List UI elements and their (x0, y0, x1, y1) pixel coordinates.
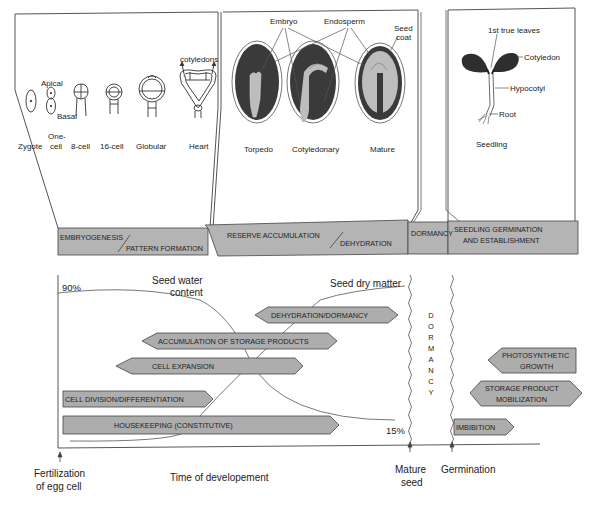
svg-text:IMBIBITION: IMBIBITION (456, 423, 495, 432)
stage-torpedo: Torpedo (244, 145, 273, 154)
fertilization-label-2: of egg cell (36, 481, 82, 492)
stage-one-cell-b: cell (50, 142, 62, 151)
stage-zygote: Zygote (18, 142, 43, 151)
mature-seed-label-1: Mature (395, 464, 427, 475)
phase-pattern-formation: PATTERN FORMATION (126, 244, 203, 253)
seed-development-diagram: cotyledons Apical Basal Zygote One- cell… (0, 0, 596, 506)
svg-text:DEHYDRATION/DORMANCY: DEHYDRATION/DORMANCY (271, 311, 368, 320)
reserve-panel: Embryo Endosperm Seed coat Torpedo Cotyl… (223, 10, 418, 228)
process-storage-mobilization: STORAGE PRODUCT MOBILIZATION (470, 381, 582, 406)
phase-dormancy: DORMANCY (411, 229, 453, 238)
x-axis-label: Time of developement (170, 472, 269, 483)
stage-8-cell: 8-cell (71, 142, 90, 151)
dormancy-vertical-label: D O R M A N C Y (428, 311, 434, 397)
process-accumulation: ACCUMULATION OF STORAGE PRODUCTS (142, 333, 337, 349)
one-cell-icon (47, 87, 56, 114)
svg-text:O: O (428, 322, 434, 331)
hypocotyl-label: Hypocotyl (510, 84, 545, 93)
svg-text:M: M (428, 344, 434, 353)
x-axis (58, 444, 540, 448)
pct-15-label: 15% (386, 425, 406, 436)
svg-text:GROWTH: GROWTH (520, 362, 553, 371)
seed-coat-label-1: Seed (394, 24, 413, 33)
stage-seedling: Seedling (476, 140, 507, 149)
germination-label: Germination (441, 464, 495, 475)
embryo-label: Embryo (270, 17, 298, 26)
svg-text:C: C (428, 377, 434, 386)
seed-coat-label-2: coat (396, 33, 412, 42)
process-imbibition: IMBIBITION (454, 419, 514, 435)
mature-seed-icon (355, 43, 405, 123)
sixteen-cell-icon (106, 84, 122, 114)
svg-text:CELL EXPANSION: CELL EXPANSION (152, 362, 214, 371)
phase-germination-2: AND ESTABLISHMENT (463, 236, 540, 245)
svg-text:HOUSEKEEPING (CONSTITUTIVE): HOUSEKEEPING (CONSTITUTIVE) (114, 421, 233, 430)
svg-text:CELL DIVISION/DIFFERENTIATION: CELL DIVISION/DIFFERENTIATION (65, 395, 184, 404)
cotyledons-label: cotyledons (180, 55, 218, 64)
svg-text:R: R (428, 333, 434, 342)
basal-label: Basal (57, 112, 77, 121)
apical-label: Apical (41, 79, 63, 88)
svg-text:MOBILIZATION: MOBILIZATION (496, 395, 547, 404)
germination-arrow-icon (450, 442, 454, 452)
mature-seed-label-2: seed (401, 477, 423, 488)
torpedo-seed-icon (232, 41, 282, 123)
process-dehydration-dormancy: DEHYDRATION/DORMANCY (255, 307, 398, 323)
stage-mature: Mature (370, 145, 395, 154)
fertilization-label-1: Fertilization (34, 468, 85, 479)
process-cell-expansion: CELL EXPANSION (116, 358, 303, 374)
zygote-icon (26, 90, 36, 112)
fertilization-arrow-icon (58, 452, 62, 462)
endosperm-label: Endosperm (324, 17, 365, 26)
svg-text:A: A (428, 355, 433, 364)
seedling-panel: 1st true leaves Cotyledon Hypocotyl Root… (410, 8, 575, 228)
heart-stage-icon (180, 62, 216, 118)
embryogenesis-panel: cotyledons Apical Basal Zygote One- cell… (15, 12, 221, 228)
cotyledonary-seed-icon (287, 41, 339, 123)
svg-text:ACCUMULATION OF STORAGE PRODUC: ACCUMULATION OF STORAGE PRODUCTS (158, 337, 309, 346)
stage-globular: Globular (136, 142, 167, 151)
cotyledon-label: Cotyledon (524, 53, 560, 62)
svg-text:Y: Y (428, 388, 433, 397)
root-label: Root (499, 110, 517, 119)
globular-icon (139, 76, 165, 118)
svg-text:PHOTOSYNTHETIC: PHOTOSYNTHETIC (502, 351, 569, 360)
svg-text:D: D (428, 311, 434, 320)
process-housekeeping: HOUSEKEEPING (CONSTITUTIVE) (63, 416, 339, 434)
stage-heart: Heart (189, 142, 209, 151)
phase-embryogenesis: EMBRYOGENESIS (60, 233, 123, 242)
mature-seed-wavy-line (409, 275, 412, 449)
process-cell-division: CELL DIVISION/DIFFERENTIATION (63, 391, 213, 407)
true-leaves-label: 1st true leaves (488, 26, 540, 35)
phase-dehydration: DEHYDRATION (340, 239, 392, 248)
stage-one-cell-a: One- (48, 132, 66, 141)
water-content-label-2: content (170, 287, 203, 298)
phase-bar: EMBRYOGENESIS PATTERN FORMATION RESERVE … (58, 220, 578, 256)
pct-90-label: 90% (62, 282, 82, 293)
dry-matter-label: Seed dry matter (330, 278, 402, 289)
germination-wavy-line (451, 275, 454, 449)
mature-seed-arrow-icon (408, 442, 412, 452)
water-content-label-1: Seed water (152, 275, 203, 286)
process-photosynthetic-growth: PHOTOSYNTHETIC GROWTH (488, 348, 576, 373)
svg-text:STORAGE PRODUCT: STORAGE PRODUCT (485, 384, 559, 393)
stage-16-cell: 16-cell (100, 142, 124, 151)
timeline-chart: 90% Seed water content Seed dry matter 1… (34, 275, 582, 492)
phase-reserve-accumulation: RESERVE ACCUMULATION (227, 231, 320, 240)
svg-text:N: N (428, 366, 433, 375)
stage-cotyledonary: Cotyledonary (292, 145, 339, 154)
phase-germination-1: SEEDLING GERMINATION (454, 225, 543, 234)
